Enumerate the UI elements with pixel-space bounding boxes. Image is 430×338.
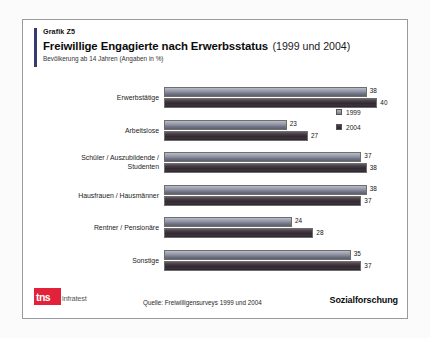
bar-group: Sonstige3537 — [23, 247, 409, 277]
page-title-main: Freiwillige Engagierte nach Erwerbsstatu… — [43, 40, 268, 52]
logo-wordmark: infratest — [62, 294, 87, 303]
legend-swatch-2004-icon — [336, 124, 342, 130]
bar-1999 — [164, 152, 361, 162]
bar-value-label: 38 — [370, 164, 377, 172]
category-label: Sonstige — [31, 257, 159, 266]
page-title-years: (1999 und 2004) — [273, 40, 351, 52]
bar-value-label: 35 — [354, 250, 361, 258]
chart-footer: tns infratest Quelle: Freiwilligensurvey… — [23, 282, 409, 318]
bar-2004 — [164, 261, 361, 271]
bar-pair: 3738 — [164, 151, 404, 177]
category-label: Erwerbstätige — [31, 94, 159, 103]
bar-2004 — [164, 196, 361, 206]
bar-pair: 3837 — [164, 184, 404, 210]
legend-item-2004: 2004 — [336, 121, 396, 133]
category-label: Arbeitslose — [31, 127, 159, 136]
bar-2004 — [164, 163, 367, 173]
bar-group: Schüler / Auszubildende /Studenten3738 — [23, 149, 409, 179]
chart-header: Grafik Z5 Freiwillige Engagierte nach Er… — [34, 27, 394, 63]
bar-1999 — [164, 185, 367, 195]
chart-subtitle: Bevölkerung ab 14 Jahren (Angaben in %) — [43, 54, 394, 63]
legend-swatch-1999-icon — [336, 109, 342, 115]
category-label-line: Hausfrauen / Hausmänner — [31, 192, 159, 201]
bar-pair: 2428 — [164, 216, 404, 242]
category-label-line: Erwerbstätige — [31, 94, 159, 103]
logo-badge-text: tns — [36, 291, 50, 303]
footer-tagline: Sozialforschung — [329, 295, 398, 305]
bar-1999 — [164, 217, 292, 227]
category-label: Schüler / Auszubildende /Studenten — [31, 154, 159, 171]
legend-item-1999: 1999 — [336, 106, 396, 118]
category-label-line: Studenten — [31, 163, 159, 172]
category-label-line: Arbeitslose — [31, 127, 159, 136]
category-label: Rentner / Pensionäre — [31, 224, 159, 233]
slide-card: Grafik Z5 Freiwillige Engagierte nach Er… — [22, 19, 408, 319]
bar-1999 — [164, 87, 367, 97]
bar-group: Hausfrauen / Hausmänner3837 — [23, 182, 409, 212]
bar-2004 — [164, 228, 313, 238]
bar-1999 — [164, 120, 287, 130]
legend-label-2004: 2004 — [346, 124, 361, 131]
category-label: Hausfrauen / Hausmänner — [31, 192, 159, 201]
page-background: Grafik Z5 Freiwillige Engagierte nach Er… — [0, 0, 430, 338]
category-label-line: Sonstige — [31, 257, 159, 266]
header-accent-bar — [34, 28, 37, 67]
page-title: Freiwillige Engagierte nach Erwerbsstatu… — [43, 38, 394, 53]
source-note: Quelle: Freiwilligensurveys 1999 und 200… — [143, 299, 262, 306]
bar-2004 — [164, 131, 308, 141]
bar-value-label: 38 — [370, 87, 377, 95]
bar-value-label: 27 — [311, 132, 318, 140]
bar-value-label: 23 — [290, 120, 297, 128]
bar-value-label: 38 — [370, 185, 377, 193]
bar-pair: 3537 — [164, 249, 404, 275]
category-label-line: Schüler / Auszubildende / — [31, 154, 159, 163]
header-text-block: Grafik Z5 Freiwillige Engagierte nach Er… — [43, 27, 394, 63]
bar-group: Rentner / Pensionäre2428 — [23, 214, 409, 244]
bar-value-label: 37 — [364, 152, 371, 160]
bar-1999 — [164, 250, 351, 260]
bar-value-label: 37 — [364, 262, 371, 270]
category-label-line: Rentner / Pensionäre — [31, 224, 159, 233]
chart-legend: 1999 2004 — [336, 106, 396, 136]
legend-label-1999: 1999 — [346, 109, 361, 116]
bar-value-label: 28 — [316, 229, 323, 237]
bar-value-label: 37 — [364, 197, 371, 205]
chart-number-label: Grafik Z5 — [43, 27, 394, 37]
bar-value-label: 24 — [295, 217, 302, 225]
tns-infratest-logo: tns infratest — [34, 288, 96, 306]
